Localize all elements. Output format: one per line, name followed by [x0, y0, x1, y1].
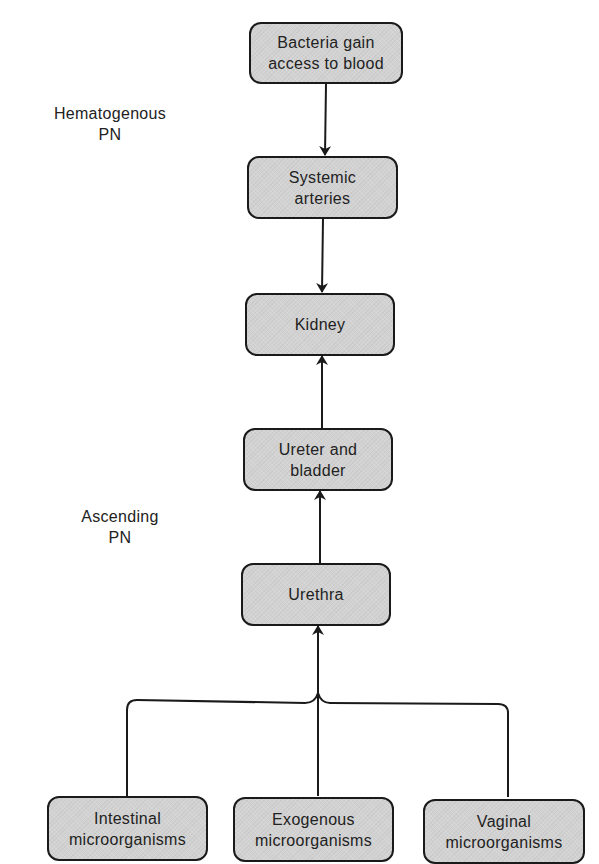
arrow-blood-to-arteries [325, 84, 326, 155]
hematogenous-pn-label: Hematogenous PN [40, 103, 180, 145]
branch-vaginal [318, 693, 508, 797]
node-ureter-bladder: Ureter and bladder [243, 428, 393, 491]
hematogenous-label-line2: PN [40, 124, 180, 145]
node-arteries-line2: arteries [295, 188, 351, 209]
node-kidney-line1: Kidney [295, 314, 346, 335]
node-urethra: Urethra [241, 563, 391, 626]
hematogenous-label-line1: Hematogenous [40, 103, 180, 124]
node-exogenous-line2: microorganisms [255, 830, 372, 851]
node-bacteria-line1: Bacteria gain [277, 32, 374, 53]
arrow-arteries-to-kidney [322, 219, 323, 292]
node-ureter-line2: bladder [290, 460, 345, 481]
node-urethra-line1: Urethra [288, 584, 343, 605]
node-vaginal-line2: microorganisms [445, 832, 562, 853]
node-kidney: Kidney [245, 293, 395, 356]
node-vaginal-microorganisms: Vaginal microorganisms [423, 799, 585, 864]
branch-intestinal [127, 693, 318, 796]
ascending-pn-label: Ascending PN [60, 506, 180, 548]
node-ureter-line1: Ureter and [279, 439, 358, 460]
node-intestinal-microorganisms: Intestinal microorganisms [47, 796, 208, 861]
node-exogenous-line1: Exogenous [272, 809, 355, 830]
node-systemic-arteries: Systemic arteries [247, 156, 398, 219]
ascending-label-line1: Ascending [60, 506, 180, 527]
ascending-label-line2: PN [60, 527, 180, 548]
node-exogenous-microorganisms: Exogenous microorganisms [233, 797, 394, 862]
node-intestinal-line2: microorganisms [69, 829, 186, 850]
node-vaginal-line1: Vaginal [477, 811, 531, 832]
node-intestinal-line1: Intestinal [94, 808, 161, 829]
node-bacteria-access-blood: Bacteria gain access to blood [249, 22, 403, 84]
node-bacteria-line2: access to blood [268, 53, 384, 74]
node-arteries-line1: Systemic [289, 167, 356, 188]
